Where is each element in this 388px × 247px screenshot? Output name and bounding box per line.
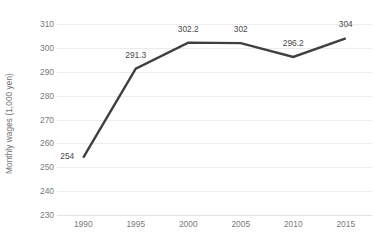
line-chart: Monthly wages (1,000 yen) 31030029028027… [0,0,388,247]
data-label-1995: 291.3 [125,50,146,60]
data-label-2015: 304 [339,19,353,29]
data-label-2010: 296.2 [283,38,304,48]
series-line-monthly-wages [83,38,346,157]
plot-area [0,0,388,247]
data-label-2005: 302 [234,24,248,34]
data-label-2000: 302.2 [178,24,199,34]
data-label-1990: 254 [60,151,74,161]
